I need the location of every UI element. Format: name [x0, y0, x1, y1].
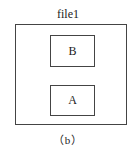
container-label: file1 [0, 7, 136, 21]
box-a-label: A [68, 93, 77, 108]
box-a: A [50, 85, 95, 116]
figure-caption: （b） [0, 133, 136, 147]
box-b-label: B [68, 44, 76, 59]
box-b: B [50, 35, 95, 67]
